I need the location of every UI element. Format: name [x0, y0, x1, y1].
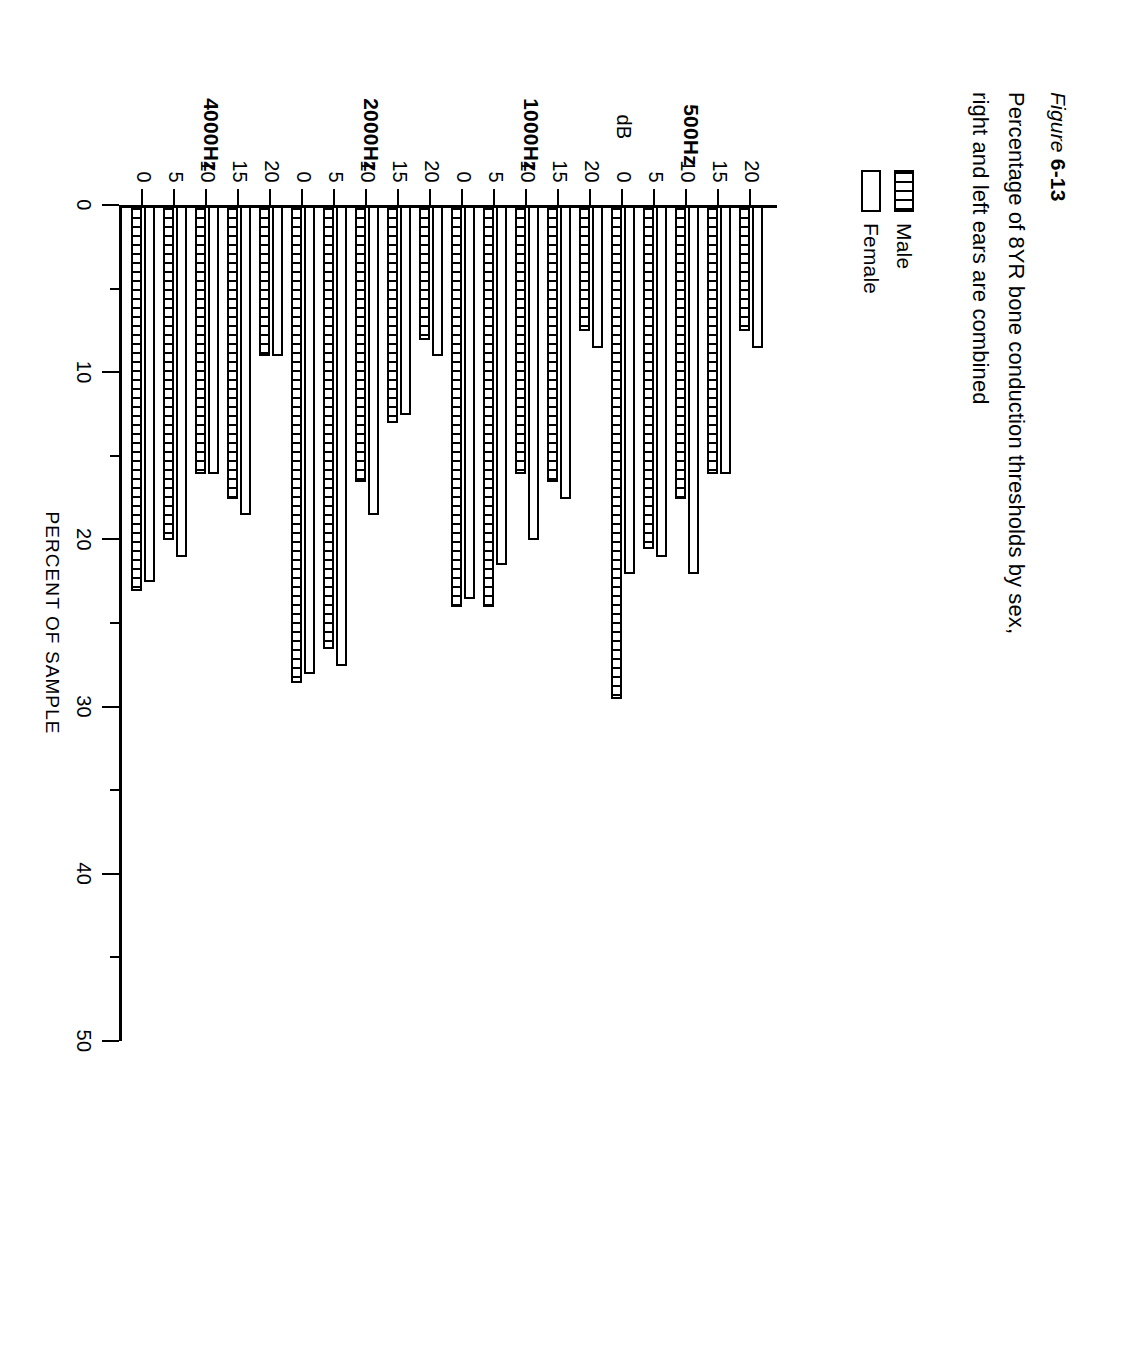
- bar-female: [656, 206, 667, 557]
- value-tick-minor: [110, 455, 119, 457]
- value-axis-line: [119, 205, 122, 1041]
- bar-female: [144, 206, 155, 582]
- legend-item: Female: [859, 170, 883, 294]
- category-tick: [269, 189, 271, 205]
- value-tick-major: [102, 371, 119, 373]
- category-tick: [653, 189, 655, 205]
- bar-female: [304, 206, 315, 674]
- value-tick-major: [102, 204, 119, 206]
- bar-male: [611, 206, 622, 699]
- value-tick-major: [102, 538, 119, 540]
- figure-number-prefix: Figure: [1047, 92, 1070, 159]
- category-tick-label: 5: [324, 143, 347, 183]
- category-tick: [173, 189, 175, 205]
- category-tick: [397, 189, 399, 205]
- chart-legend: MaleFemale: [850, 170, 916, 294]
- bar-male: [483, 206, 494, 607]
- category-tick: [333, 189, 335, 205]
- group-label-4000hz: 4000Hz: [199, 77, 223, 193]
- bar-female: [496, 206, 507, 565]
- bar-male: [707, 206, 718, 474]
- category-tick-label: 0: [292, 143, 315, 183]
- bar-female: [624, 206, 635, 574]
- bar-male: [451, 206, 462, 607]
- value-tick-minor: [110, 789, 119, 791]
- value-tick-major: [102, 1040, 119, 1042]
- category-unit-label: dB: [612, 93, 635, 139]
- bar-female: [592, 206, 603, 348]
- legend-label: Female: [859, 223, 883, 294]
- value-tick-label: 50: [72, 1030, 95, 1053]
- bar-male: [419, 206, 430, 340]
- category-tick: [557, 189, 559, 205]
- category-tick: [141, 189, 143, 205]
- legend-swatch-female: [861, 170, 881, 212]
- category-tick-label: 5: [644, 143, 667, 183]
- category-tick-label: 0: [132, 143, 155, 183]
- bar-male: [643, 206, 654, 549]
- bar-female: [400, 206, 411, 415]
- value-tick-minor: [110, 288, 119, 290]
- bar-female: [240, 206, 251, 515]
- category-tick: [749, 189, 751, 205]
- value-tick-major: [102, 706, 119, 708]
- bar-female: [688, 206, 699, 574]
- category-tick-label: 20: [580, 143, 603, 183]
- group-label-1000hz: 1000Hz: [519, 77, 543, 193]
- value-tick-minor: [110, 622, 119, 624]
- bar-male: [355, 206, 366, 482]
- value-tick-minor: [110, 956, 119, 958]
- category-tick: [429, 189, 431, 205]
- value-tick-label: 20: [72, 528, 95, 551]
- category-tick-label: 5: [484, 143, 507, 183]
- category-tick-label: 15: [708, 143, 731, 183]
- category-tick-label: 0: [612, 143, 635, 183]
- category-tick: [493, 189, 495, 205]
- category-tick-label: 20: [420, 143, 443, 183]
- bar-female: [272, 206, 283, 356]
- value-tick-label: 40: [72, 862, 95, 885]
- figure-heading: Figure 6-13 Percentage of 8YR bone condu…: [961, 92, 1070, 1132]
- category-tick: [621, 189, 623, 205]
- legend-swatch-male: [894, 170, 914, 212]
- category-tick-label: 5: [164, 143, 187, 183]
- category-tick: [717, 189, 719, 205]
- plot-area: PERCENT OF SAMPLE 010203040500dB51015205…: [127, 205, 767, 1041]
- bar-female: [176, 206, 187, 557]
- bar-male: [675, 206, 686, 499]
- bar-male: [323, 206, 334, 649]
- bar-female: [208, 206, 219, 474]
- bar-male: [195, 206, 206, 474]
- bar-female: [560, 206, 571, 499]
- category-tick-label: 0: [452, 143, 475, 183]
- bar-male: [259, 206, 270, 356]
- value-tick-major: [102, 873, 119, 875]
- bar-male: [163, 206, 174, 540]
- category-tick-label: 20: [740, 143, 763, 183]
- figure-stage: Figure 6-13 Percentage of 8YR bone condu…: [0, 0, 1122, 1352]
- bar-male: [387, 206, 398, 423]
- category-tick: [237, 189, 239, 205]
- bar-female: [432, 206, 443, 356]
- category-tick-label: 20: [260, 143, 283, 183]
- category-tick-label: 15: [388, 143, 411, 183]
- bar-male: [131, 206, 142, 591]
- value-tick-label: 0: [72, 199, 95, 210]
- figure-title: Percentage of 8YR bone conduction thresh…: [961, 92, 1034, 652]
- bar-male: [547, 206, 558, 482]
- bar-female: [368, 206, 379, 515]
- value-axis-title: PERCENT OF SAMPLE: [41, 205, 63, 1041]
- bar-male: [515, 206, 526, 474]
- category-tick: [589, 189, 591, 205]
- figure-number: Figure 6-13: [1046, 92, 1070, 1132]
- value-tick-label: 10: [72, 361, 95, 384]
- value-tick-label: 30: [72, 695, 95, 718]
- bar-male: [579, 206, 590, 331]
- category-tick: [301, 189, 303, 205]
- bar-male: [291, 206, 302, 683]
- figure-number-value: 6-13: [1047, 159, 1070, 202]
- bar-female: [720, 206, 731, 474]
- category-tick-label: 15: [228, 143, 251, 183]
- bar-male: [227, 206, 238, 499]
- group-label-500hz: 500Hz: [679, 77, 703, 193]
